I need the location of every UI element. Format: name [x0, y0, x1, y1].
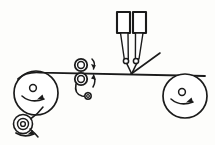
nip-roller-assembly: [75, 59, 96, 99]
upper-nip-roller-inner: [78, 62, 85, 69]
rewind-roll-body: [163, 74, 207, 118]
arrow-lower-nip-rotation-head: [91, 75, 96, 80]
rewind-roll-hub: [179, 89, 186, 96]
machine-schematic: [0, 0, 215, 145]
arrow-upper-nip-rotation-head: [91, 64, 96, 69]
applicator-head-right: [133, 12, 146, 33]
rewind-roll: [163, 74, 207, 118]
diagram-canvas: Web coating line schematic: [0, 0, 215, 145]
nozzle-left-jet: [127, 64, 132, 74]
nozzle-right: [133, 58, 138, 63]
feed-roll-outer: [14, 115, 33, 134]
nozzle-left: [123, 58, 128, 63]
lower-nip-roller-inner: [78, 76, 85, 83]
pivot-pin-outer: [85, 93, 91, 99]
applicator-stem-left: [121, 33, 129, 59]
applicator-assembly: [117, 12, 146, 74]
applicator-stem-right: [135, 33, 143, 59]
applicator-head-left: [117, 12, 130, 33]
unwind-roll-hub: [30, 85, 37, 92]
